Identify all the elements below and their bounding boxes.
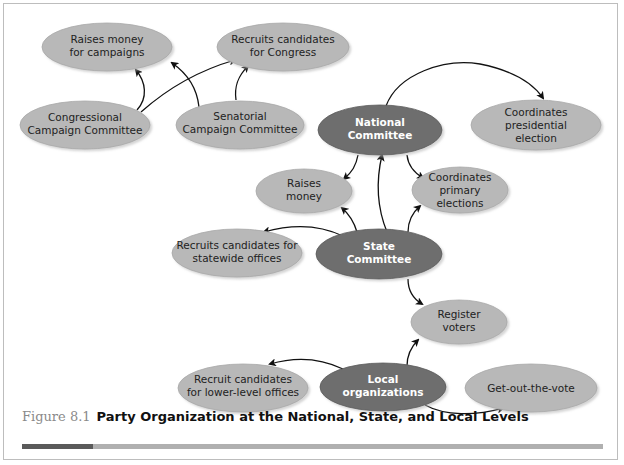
label-lower-level-2: for lower-level offices	[187, 386, 299, 398]
label-presidential-3: election	[515, 132, 557, 144]
label-senatorial-2: Campaign Committee	[183, 123, 298, 135]
label-statewide-1: Recruits candidates for	[176, 239, 298, 251]
figure-caption: Figure 8.1Party Organization at the Nati…	[22, 407, 529, 425]
label-national-2: Committee	[348, 129, 413, 141]
label-raises-money-2: money	[286, 190, 322, 202]
arrow-state-to-national	[378, 155, 387, 232]
label-raises-money-campaigns-2: for campaigns	[69, 46, 144, 58]
label-state-1: State	[363, 240, 395, 252]
arrow-local-to-register-voters	[407, 340, 418, 366]
arrow-national-to-raises-money	[344, 155, 358, 179]
label-raises-money-campaigns-1: Raises money	[70, 33, 143, 45]
arrow-state-to-register-voters	[408, 279, 422, 304]
label-senatorial-1: Senatorial	[213, 110, 266, 122]
label-presidential-1: Coordinates	[504, 106, 567, 118]
arrow-state-to-primary	[408, 206, 420, 232]
label-recruits-congress-2: for Congress	[250, 46, 316, 58]
party-organization-diagram: Raises money for campaigns Recruits cand…	[0, 0, 624, 465]
arrow-national-to-presidential	[386, 63, 543, 106]
arrow-national-to-primary	[407, 155, 423, 178]
label-lower-level-1: Recruit candidates	[194, 373, 292, 385]
label-presidential-2: presidential	[505, 119, 567, 131]
label-register-2: voters	[442, 321, 475, 333]
label-primary-3: elections	[436, 197, 483, 209]
caption-bar-dark	[22, 444, 93, 449]
label-local-1: Local	[368, 373, 399, 385]
arrow-congressional-to-raises-money	[136, 70, 144, 110]
caption-bar-light	[93, 444, 603, 449]
label-national-1: National	[355, 116, 405, 128]
label-register-1: Register	[437, 308, 481, 320]
arrow-state-to-raises-money	[342, 208, 357, 232]
arrow-local-to-recruit-lower-level	[270, 360, 343, 369]
arrow-senatorial-to-raises-money	[172, 63, 199, 107]
node-labels: Raises money for campaigns Recruits cand…	[28, 33, 575, 398]
figure-number: Figure 8.1	[22, 409, 91, 424]
label-state-2: Committee	[347, 253, 412, 265]
label-local-2: organizations	[343, 386, 424, 398]
figure-title: Party Organization at the National, Stat…	[97, 409, 529, 424]
label-recruits-congress-1: Recruits candidates	[231, 33, 334, 45]
label-statewide-2: statewide offices	[193, 252, 282, 264]
label-get-out-the-vote: Get-out-the-vote	[487, 382, 575, 394]
label-primary-2: primary	[439, 184, 480, 196]
label-primary-1: Coordinates	[428, 171, 491, 183]
label-congressional-1: Congressional	[48, 111, 122, 123]
arrow-senatorial-to-recruits-congress	[236, 66, 249, 100]
label-congressional-2: Campaign Committee	[28, 124, 143, 136]
label-raises-money-1: Raises	[287, 177, 321, 189]
